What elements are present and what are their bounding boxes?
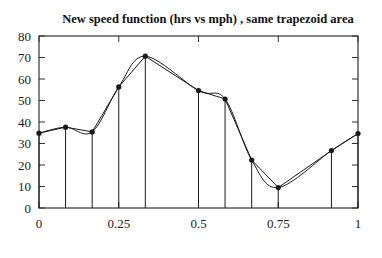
y-tick-label: 10 [18,179,31,194]
data-point-marker [90,129,95,134]
y-tick-label: 20 [18,158,31,173]
plot-area: 0102030405060708000.250.50.751 [18,29,361,232]
data-point-marker [196,88,201,93]
y-tick-label: 0 [25,201,32,216]
y-tick-label: 50 [18,93,31,108]
data-point-marker [36,131,41,136]
x-tick-label: 0.25 [107,216,130,231]
x-tick-label: 1 [355,216,362,231]
data-point-marker [329,148,334,153]
data-point-marker [276,185,281,190]
data-point-marker [143,54,148,59]
data-point-marker [249,157,254,162]
chart-title: New speed function (hrs vs mph) , same t… [62,12,354,26]
x-tick-label: 0.75 [267,216,290,231]
y-tick-label: 40 [18,115,31,130]
x-tick-label: 0.5 [190,216,206,231]
x-tick-label: 0 [36,216,43,231]
y-tick-label: 60 [18,72,31,87]
data-point-marker [116,84,121,89]
data-point-marker [355,131,360,136]
data-point-marker [222,96,227,101]
data-point-marker [63,125,68,130]
y-tick-label: 30 [18,136,31,151]
y-tick-label: 80 [18,29,31,44]
chart: New speed function (hrs vs mph) , same t… [0,0,382,258]
y-tick-label: 70 [18,50,31,65]
